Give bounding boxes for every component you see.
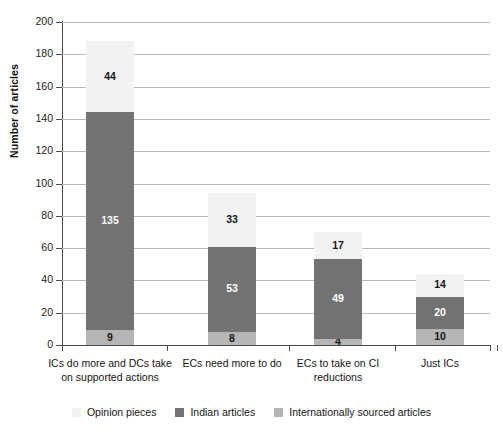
bar-value-label: 33	[208, 214, 256, 225]
y-tick-label: 140	[10, 113, 53, 124]
bar-value-label: 135	[86, 215, 134, 226]
legend-swatch-icon	[274, 408, 283, 417]
legend-label: Internationally sourced articles	[289, 406, 431, 418]
x-axis-category-label: Just ICs	[390, 357, 490, 371]
y-tick-label: 160	[10, 81, 53, 92]
x-tick-mark	[167, 345, 168, 351]
legend-item: Indian articles	[175, 406, 255, 418]
bar-value-label: 10	[416, 331, 464, 342]
bar-value-label: 20	[416, 307, 464, 318]
legend-swatch-icon	[175, 408, 184, 417]
legend-swatch-icon	[72, 408, 81, 417]
bar-stack: 102014	[416, 22, 464, 345]
bar-value-label: 9	[86, 332, 134, 343]
x-tick-mark	[490, 345, 491, 351]
x-tick-mark	[289, 345, 290, 351]
bar-stack: 85333	[208, 22, 256, 345]
x-tick-mark	[395, 345, 396, 351]
bar-value-label: 17	[314, 240, 362, 251]
y-tick-label: 20	[10, 307, 53, 318]
chart-legend: Opinion piecesIndian articlesInternation…	[0, 406, 503, 418]
x-tick-mark	[497, 345, 498, 351]
bar-value-label: 53	[208, 283, 256, 294]
y-tick-label: 0	[10, 339, 53, 350]
plot-area: 9135448533344917102014	[62, 22, 490, 345]
x-tick-mark	[62, 345, 63, 351]
bar-value-label: 8	[208, 333, 256, 344]
x-axis-line	[62, 345, 491, 346]
y-tick-label: 60	[10, 242, 53, 253]
bar-value-label: 49	[314, 293, 362, 304]
y-tick-label: 80	[10, 210, 53, 221]
bar-stack: 913544	[86, 22, 134, 345]
y-tick-label: 40	[10, 274, 53, 285]
legend-item: Opinion pieces	[72, 406, 156, 418]
y-tick-label: 180	[10, 48, 53, 59]
bar-stack: 44917	[314, 22, 362, 345]
y-tick-label: 100	[10, 178, 53, 189]
y-tick-label: 200	[10, 16, 53, 27]
x-axis-category-label: ECs to take on CI reductions	[283, 357, 393, 384]
legend-label: Opinion pieces	[87, 406, 156, 418]
bar-value-label: 44	[86, 71, 134, 82]
x-axis-category-label: ECs need more to do	[182, 357, 282, 371]
bar-value-label: 14	[416, 279, 464, 290]
stacked-bar-chart: Number of articles 200180160140120100806…	[0, 0, 503, 435]
legend-label: Indian articles	[190, 406, 255, 418]
x-axis-category-label: ICs do more and DCs take on supported ac…	[45, 357, 175, 384]
y-tick-label: 120	[10, 145, 53, 156]
legend-item: Internationally sourced articles	[274, 406, 431, 418]
